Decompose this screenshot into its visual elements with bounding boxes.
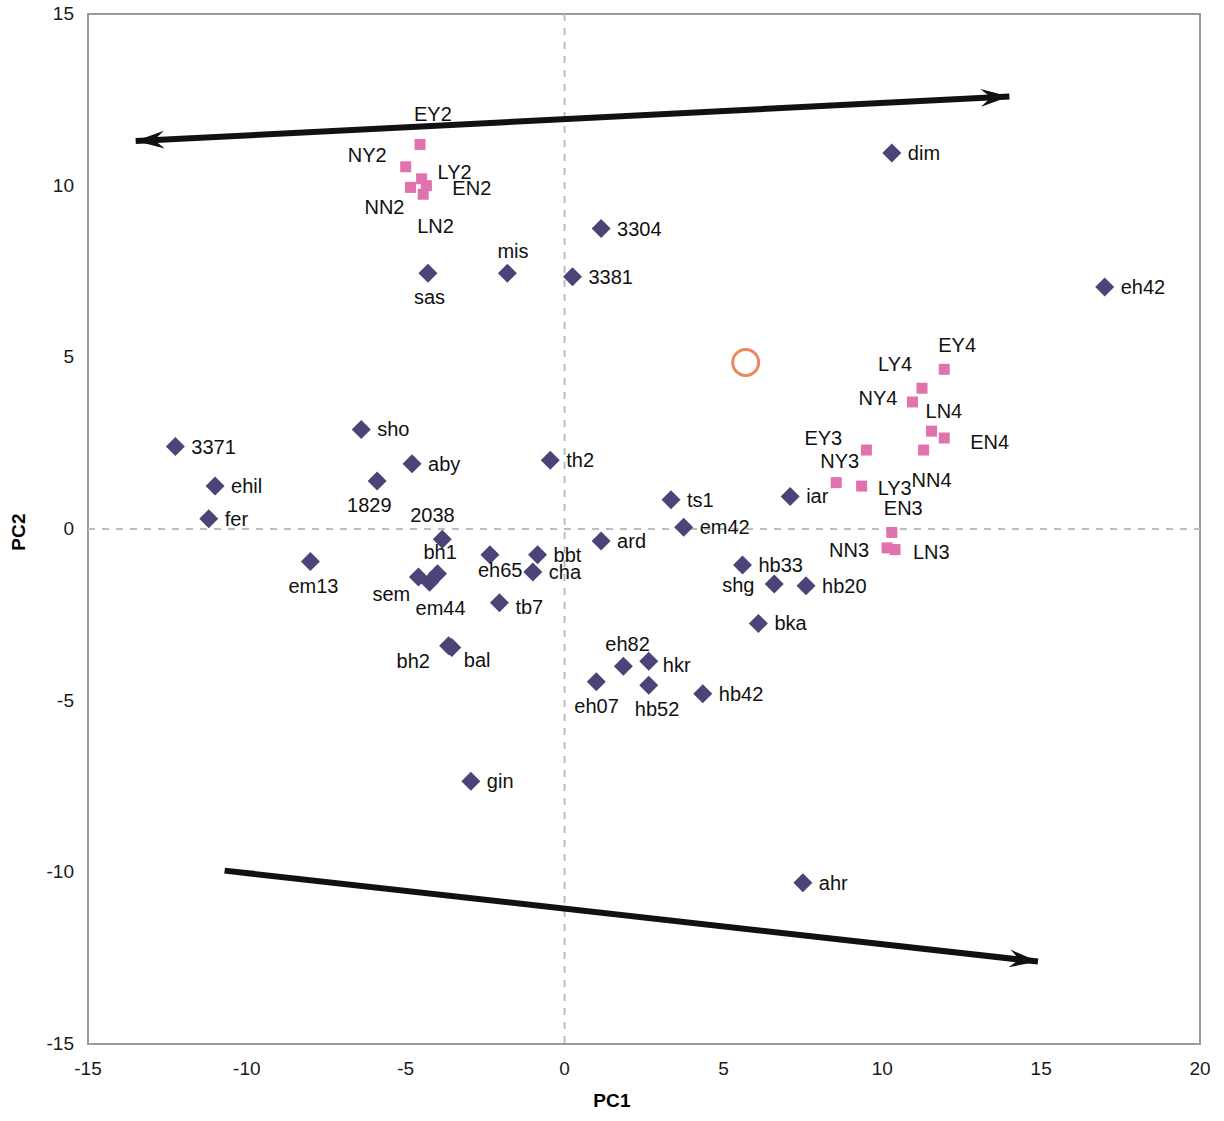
data-point-label: hkr — [663, 655, 691, 675]
y-tick-label: -10 — [14, 861, 74, 883]
data-point-label: LN4 — [926, 401, 963, 421]
data-point-marker — [541, 451, 560, 470]
data-point-marker — [793, 873, 812, 892]
data-point-marker — [528, 545, 547, 564]
data-point-label: bal — [464, 650, 491, 670]
data-point-label: aby — [428, 454, 460, 474]
plot-canvas — [0, 0, 1224, 1121]
data-point-label: LN3 — [913, 542, 950, 562]
data-point-label: th2 — [566, 450, 594, 470]
x-tick-label: 5 — [693, 1058, 753, 1080]
data-point-label: NY2 — [348, 145, 387, 165]
data-point-marker — [861, 445, 872, 456]
data-point-marker — [166, 437, 185, 456]
plot-frame — [88, 14, 1200, 1044]
data-point-label: EY3 — [804, 428, 842, 448]
data-point-label: 3381 — [589, 267, 634, 287]
x-tick-label: 15 — [1011, 1058, 1071, 1080]
data-point-marker — [592, 532, 611, 551]
data-point-marker — [918, 445, 929, 456]
x-tick-label: -15 — [58, 1058, 118, 1080]
data-point-marker — [523, 562, 542, 581]
data-point-marker — [592, 219, 611, 238]
x-tick-label: 10 — [852, 1058, 912, 1080]
data-point-marker — [199, 509, 218, 528]
data-point-label: 2038 — [410, 505, 455, 525]
data-point-label: fer — [225, 509, 248, 529]
data-point-marker — [301, 552, 320, 571]
data-point-marker — [614, 657, 633, 676]
highlight-circle-annotation — [733, 349, 759, 375]
x-tick-label: -5 — [376, 1058, 436, 1080]
x-tick-label: -10 — [217, 1058, 277, 1080]
data-point-marker — [765, 574, 784, 593]
data-point-marker — [749, 614, 768, 633]
x-tick-label: 20 — [1170, 1058, 1224, 1080]
data-point-label: LY4 — [878, 354, 912, 374]
y-tick-label: 15 — [14, 3, 74, 25]
data-point-marker — [907, 396, 918, 407]
data-point-label: sas — [414, 287, 445, 307]
x-axis-title: PC1 — [0, 1090, 1224, 1112]
data-point-label: iar — [806, 486, 828, 506]
data-point-marker — [418, 189, 429, 200]
data-point-marker — [415, 139, 426, 150]
data-point-marker — [831, 477, 842, 488]
data-point-label: 3304 — [617, 219, 662, 239]
data-point-marker — [587, 672, 606, 691]
data-point-label: hb42 — [719, 684, 764, 704]
data-point-label: cha — [549, 562, 581, 582]
data-point-marker — [206, 477, 225, 496]
data-point-label: dim — [908, 143, 940, 163]
data-point-marker — [889, 544, 900, 555]
y-tick-label: 5 — [14, 346, 74, 368]
data-point-marker — [926, 426, 937, 437]
data-point-marker — [662, 490, 681, 509]
data-point-marker — [797, 576, 816, 595]
data-point-label: EN3 — [884, 498, 923, 518]
data-point-marker — [490, 593, 509, 612]
data-point-label: eh42 — [1121, 277, 1166, 297]
y-tick-label: -15 — [14, 1033, 74, 1055]
data-point-label: em42 — [700, 517, 750, 537]
data-point-label: ahr — [819, 873, 848, 893]
data-point-label: em44 — [416, 598, 466, 618]
data-point-marker — [939, 433, 950, 444]
data-point-marker — [639, 676, 658, 695]
data-point-label: bka — [774, 613, 806, 633]
data-point-marker — [882, 144, 901, 163]
data-point-label: EN2 — [452, 178, 491, 198]
data-point-marker — [886, 527, 897, 538]
data-point-label: LY3 — [878, 478, 912, 498]
data-point-label: NN4 — [912, 470, 952, 490]
data-point-marker — [781, 487, 800, 506]
data-point-label: sho — [377, 419, 409, 439]
data-point-marker — [674, 518, 693, 537]
data-point-marker — [352, 420, 371, 439]
data-point-label: em13 — [288, 576, 338, 596]
data-point-label: eh07 — [574, 696, 619, 716]
data-point-label: ts1 — [687, 490, 714, 510]
data-point-label: NN3 — [829, 540, 869, 560]
y-axis-title: PC2 — [8, 472, 30, 592]
data-point-label: hb20 — [822, 576, 867, 596]
data-point-label: sem — [372, 584, 410, 604]
data-point-marker — [939, 364, 950, 375]
data-point-marker — [563, 267, 582, 286]
pca-scatter-chart: -15-10-505101520-15-10-5051015 dimeh4233… — [0, 0, 1224, 1121]
data-point-label: NY4 — [858, 388, 897, 408]
y-tick-label: -5 — [14, 690, 74, 712]
reference-lines — [88, 14, 1200, 1044]
data-point-marker — [368, 471, 387, 490]
data-point-label: eh65 — [478, 560, 523, 580]
data-point-label: bh1 — [423, 542, 456, 562]
data-point-label: LN2 — [417, 216, 454, 236]
data-point-label: EY4 — [938, 335, 976, 355]
y-tick-label: 10 — [14, 175, 74, 197]
data-point-label: eh82 — [605, 634, 650, 654]
data-point-marker — [461, 772, 480, 791]
data-point-label: NN2 — [364, 197, 404, 217]
data-point-marker — [1095, 277, 1114, 296]
data-point-marker — [917, 383, 928, 394]
data-point-marker — [498, 264, 517, 283]
